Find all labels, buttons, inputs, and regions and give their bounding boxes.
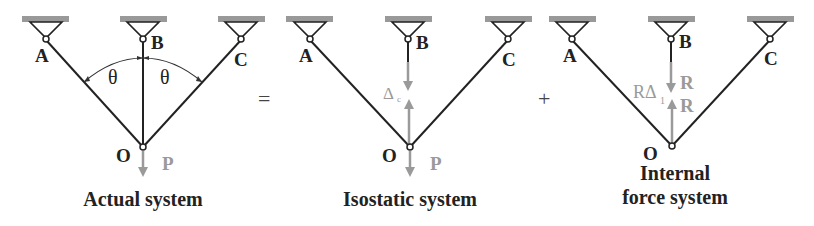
load-label-p: P xyxy=(430,153,442,174)
force-label-r-bottom: R xyxy=(680,95,694,116)
gap-label-delta: Δ xyxy=(383,84,394,103)
support-c xyxy=(485,16,532,38)
support-a xyxy=(549,16,596,38)
member-ao xyxy=(310,40,410,147)
load-label-p: P xyxy=(162,153,174,174)
equals-sign: = xyxy=(258,86,270,111)
node-label-o: O xyxy=(116,145,131,166)
support-a xyxy=(22,16,69,38)
node-label-a: A xyxy=(35,45,49,66)
diagram-actual-system: θ θ A B C O P Actual system xyxy=(22,16,265,211)
member-ao xyxy=(572,40,672,146)
node-label-a: A xyxy=(299,45,313,66)
support-c xyxy=(747,16,794,38)
caption-internal-line1: Internal xyxy=(640,162,710,184)
node-label-o: O xyxy=(382,145,397,166)
node-o xyxy=(407,144,413,150)
node-label-c: C xyxy=(502,49,516,70)
node-label-b: B xyxy=(679,31,692,52)
force-label-r-top: R xyxy=(680,72,694,93)
caption-isostatic-system: Isostatic system xyxy=(343,188,477,211)
member-co xyxy=(143,40,241,147)
diagram-internal-force-system: A B C O RΔ 1 R R Internal force system xyxy=(549,16,794,209)
node-label-a: A xyxy=(563,45,577,66)
angle-arc-right xyxy=(143,58,202,82)
node-label-o: O xyxy=(643,143,658,164)
gap-label-sub: c xyxy=(397,94,401,104)
caption-actual-system: Actual system xyxy=(83,188,203,211)
node-o xyxy=(669,143,675,149)
plus-sign: + xyxy=(538,86,550,111)
member-ao xyxy=(46,40,143,147)
diagram-isostatic-system: A B C O P Δ c Isostatic system xyxy=(286,16,532,211)
support-c xyxy=(218,16,265,38)
gap-label-sub: 1 xyxy=(660,95,665,106)
gap-label-r-delta: RΔ xyxy=(633,82,657,102)
caption-internal-line2: force system xyxy=(622,186,728,209)
member-co xyxy=(410,40,508,147)
node-o xyxy=(140,144,146,150)
angle-label-left: θ xyxy=(108,66,118,88)
node-label-c: C xyxy=(234,49,248,70)
angle-label-right: θ xyxy=(160,66,170,88)
node-label-b: B xyxy=(151,32,164,53)
node-label-c: C xyxy=(764,48,778,69)
member-co xyxy=(672,40,770,146)
support-a xyxy=(286,16,333,38)
node-label-b: B xyxy=(416,32,429,53)
